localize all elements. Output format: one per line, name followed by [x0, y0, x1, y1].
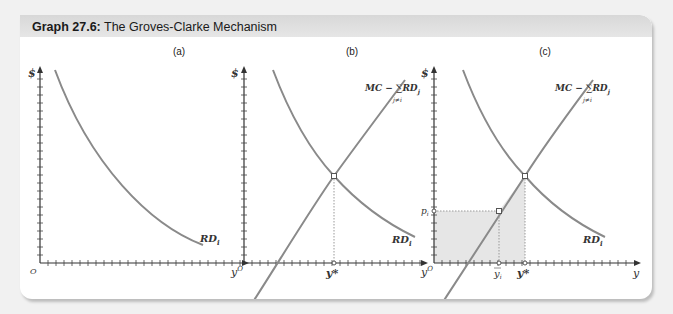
panel-a: (a) $ O RDi [28, 46, 249, 276]
rd-i-curve [55, 70, 203, 245]
ybar-marker [497, 261, 501, 265]
y-axis-label: $ [421, 67, 429, 80]
mc-label: MC − ∑RDj [364, 83, 421, 96]
equilibrium-point [332, 174, 337, 179]
rd-i-label: RDi [391, 234, 412, 248]
y-axis-label: $ [28, 67, 36, 80]
figure-card: Graph 27.6: The Groves-Clarke Mechanism … [20, 15, 652, 299]
equilibrium-point [523, 174, 528, 179]
ystar-marker [332, 261, 336, 265]
y-axis-label: $ [231, 67, 239, 80]
sum-subscript: j≠i [391, 96, 402, 104]
ystar-marker [523, 261, 527, 265]
surplus-area [499, 176, 525, 263]
panel-b: (b) $ yO y* RDi MC − ∑RDj j≠i [230, 46, 428, 299]
panel-a-label: (a) [173, 46, 185, 57]
y-axis-arrow-icon [37, 66, 43, 73]
groves-clarke-diagram: (a) $ O RDi (b) [20, 15, 652, 299]
ybar-label: yi [493, 268, 502, 280]
panel-c-label: (c) [539, 46, 551, 57]
x-axis-arrow-icon [634, 260, 641, 266]
payment-rectangle [434, 211, 499, 263]
ystar-label: y* [325, 267, 338, 280]
sum-subscript: j≠i [581, 96, 592, 104]
origin-label: yO [230, 265, 243, 279]
origin-label: O [30, 267, 37, 276]
ystar-label: y* [516, 267, 529, 280]
panel-c: (c) $ yO y [420, 46, 641, 299]
price-label: pi [421, 206, 429, 217]
announced-point [497, 209, 502, 214]
rd-i-label: RDi [582, 234, 603, 248]
x-axis-label: y [632, 267, 640, 280]
price-marker [432, 209, 436, 213]
y-axis-arrow-icon [241, 66, 247, 73]
y-axis-arrow-icon [431, 66, 437, 73]
origin-label: yO [420, 265, 433, 279]
panel-b-label: (b) [346, 46, 358, 57]
